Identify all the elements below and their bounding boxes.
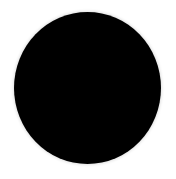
black-circle: [14, 12, 161, 164]
image-canvas: [0, 0, 176, 179]
